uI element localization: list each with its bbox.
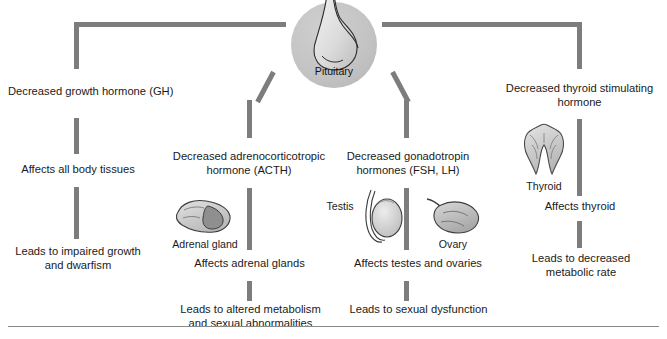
connector-gonadotropin-to-outcome — [404, 281, 409, 301]
gh-outcome-label: Leads to impaired growth and dwarfism — [3, 245, 153, 272]
thyroid-gland-icon — [520, 123, 568, 177]
acth-effect-label: Affects adrenal glands — [177, 257, 322, 271]
gonadotropin-hormone-label: Decreased gonadotropin hormones (FSH, LH… — [327, 150, 489, 177]
connector-tsh-to-effect — [577, 119, 582, 196]
connector-gh-to-effect — [74, 118, 79, 154]
connector-acth-vertical — [247, 100, 252, 138]
adrenal-gland-icon — [172, 198, 234, 236]
ovary-label: Ovary — [424, 238, 482, 250]
ovary-icon — [425, 196, 483, 238]
adrenal-gland-label: Adrenal gland — [160, 238, 250, 250]
tsh-effect-label: Affects thyroid — [526, 200, 634, 214]
gh-effect-label: Affects all body tissues — [8, 163, 148, 177]
connector-acth-to-outcome — [247, 281, 252, 301]
tsh-hormone-label: Decreased thyroid stimulating hormone — [492, 82, 667, 109]
connector-gonadotropin-vertical — [404, 100, 409, 138]
connector-gh-to-outcome — [74, 187, 79, 239]
connector-gh-elbow-vertical — [74, 22, 79, 69]
testis-label: Testis — [318, 200, 362, 212]
pituitary-label: Pituitary — [291, 65, 377, 77]
pituitary-hormone-diagram: Pituitary Decreased growth hormone (GH) … — [0, 0, 667, 339]
connector-acth-diagonal — [255, 71, 275, 103]
bottom-divider — [8, 326, 659, 327]
tsh-outcome-label: Leads to decreased metabolic rate — [511, 252, 651, 279]
gonadotropin-effect-label: Affects testes and ovaries — [338, 257, 498, 271]
testis-icon — [362, 186, 406, 248]
connector-tsh-to-outcome — [577, 221, 582, 248]
connector-tsh-horizontal — [382, 22, 582, 27]
connector-tsh-elbow-vertical — [577, 22, 582, 69]
acth-hormone-label: Decreased adrenocorticotropic hormone (A… — [165, 150, 333, 177]
connector-gonadotropin-diagonal — [390, 71, 410, 103]
gonadotropin-outcome-label: Leads to sexual dysfunction — [336, 303, 501, 317]
connector-gh-horizontal — [74, 22, 286, 27]
thyroid-label: Thyroid — [512, 180, 576, 192]
gh-hormone-label: Decreased growth hormone (GH) — [8, 85, 198, 99]
